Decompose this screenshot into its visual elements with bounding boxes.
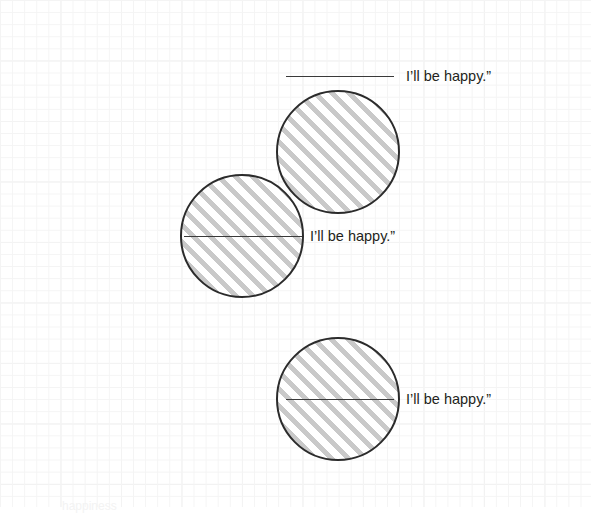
right-phrase-text: I’ll be happy.” bbox=[406, 67, 491, 85]
right-phrase-text: I’ll be happy.” bbox=[406, 390, 491, 408]
hatched-blank-circle[interactable] bbox=[276, 90, 400, 214]
clipped-footer-text: happiness bbox=[62, 499, 117, 513]
blank-write-line bbox=[286, 76, 394, 77]
blank-write-line bbox=[286, 399, 394, 400]
right-phrase-text: I’ll be happy.” bbox=[310, 227, 395, 245]
blank-write-line bbox=[184, 236, 302, 237]
